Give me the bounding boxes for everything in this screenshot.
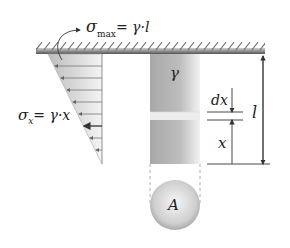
sigma-max-label: σmax= γ·l: [86, 17, 149, 39]
bar-stress-diagram: σmax= γ·l σx= γ·x γ A dx x l: [0, 0, 290, 248]
x-label: x: [218, 134, 227, 152]
l-label: l: [252, 103, 257, 122]
dx-label: dx: [211, 92, 228, 108]
gamma-label: γ: [170, 64, 179, 82]
fixed-support: [36, 42, 266, 54]
dimension-lines: [207, 56, 270, 164]
sigma-x-label: σx= γ·x: [18, 106, 70, 126]
area-label: A: [166, 196, 179, 214]
